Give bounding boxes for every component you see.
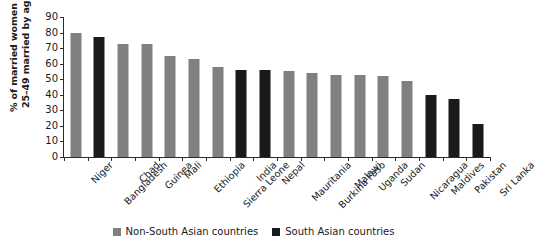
bar-slot — [253, 17, 277, 157]
legend-item: South Asian countries — [272, 226, 394, 237]
bar-slot — [206, 17, 230, 157]
bar — [354, 75, 365, 157]
bar — [165, 56, 176, 157]
bar — [331, 75, 342, 157]
bar-series — [64, 17, 490, 157]
bar — [425, 95, 436, 157]
legend-swatch — [272, 228, 280, 236]
bar — [449, 99, 460, 157]
y-axis-tick-label: 0 — [4, 152, 64, 162]
bar-slot — [419, 17, 443, 157]
legend-swatch — [113, 228, 121, 236]
bar — [378, 76, 389, 157]
y-axis-tick-label: 80 — [4, 28, 64, 38]
x-axis-label: Niger — [90, 160, 115, 185]
y-axis-tick-label: 20 — [4, 121, 64, 131]
bar-slot — [88, 17, 112, 157]
legend-label: South Asian countries — [285, 226, 394, 237]
x-axis-tick-mark — [490, 157, 491, 161]
y-axis-tick-label: 30 — [4, 105, 64, 115]
y-axis-tick-label: 90 — [4, 12, 64, 22]
x-axis-labels: NigerBangladeshChadGuineaMaliEthiopiaSie… — [64, 160, 490, 220]
y-axis-tick-label: 10 — [4, 136, 64, 146]
bar — [402, 81, 413, 157]
bar-slot — [182, 17, 206, 157]
bar-slot — [111, 17, 135, 157]
bar — [212, 67, 223, 157]
bar — [94, 37, 105, 157]
bar — [283, 71, 294, 157]
bar-slot — [348, 17, 372, 157]
bar-slot — [277, 17, 301, 157]
bar-slot — [159, 17, 183, 157]
chart-legend: Non-South Asian countriesSouth Asian cou… — [0, 226, 507, 237]
bar-slot — [64, 17, 88, 157]
y-axis-tick-label: 70 — [4, 43, 64, 53]
bar — [307, 73, 318, 157]
bar — [189, 59, 200, 157]
bar-slot — [135, 17, 159, 157]
bar-slot — [395, 17, 419, 157]
bar-slot — [466, 17, 490, 157]
bar-slot — [230, 17, 254, 157]
bar-slot — [324, 17, 348, 157]
x-axis-label: Ethiopia — [212, 160, 247, 195]
y-axis-tick-label: 40 — [4, 90, 64, 100]
legend-item: Non-South Asian countries — [113, 226, 259, 237]
bar — [473, 124, 484, 157]
bar — [141, 44, 152, 157]
bar-slot — [301, 17, 325, 157]
y-axis-tick-label: 50 — [4, 74, 64, 84]
plot-area: 0102030405060708090 — [64, 17, 490, 157]
bar — [260, 70, 271, 157]
bar-slot — [372, 17, 396, 157]
bar — [236, 70, 247, 157]
y-axis-tick-label: 60 — [4, 59, 64, 69]
bar — [70, 33, 81, 157]
bar — [118, 44, 129, 157]
bar-slot — [443, 17, 467, 157]
legend-label: Non-South Asian countries — [126, 226, 259, 237]
